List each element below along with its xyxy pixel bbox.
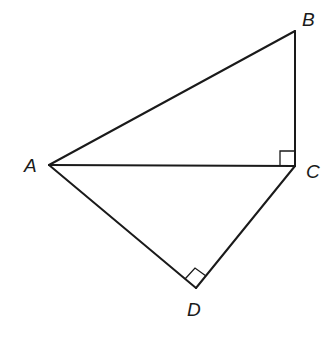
segment-DC [196,166,295,288]
right-angle-marker-C [280,151,295,166]
label-D: D [187,299,201,320]
label-A: A [23,155,37,176]
segment-AC [49,165,295,166]
label-C: C [306,161,320,182]
right-angle-marker-D [185,268,206,279]
geometry-diagram: A B C D [0,0,335,350]
segment-AD [49,165,196,288]
segment-AB [49,31,295,165]
label-B: B [302,9,315,30]
